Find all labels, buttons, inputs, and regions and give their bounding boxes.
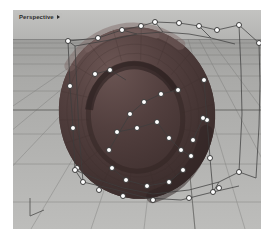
control-point[interactable]	[217, 186, 222, 191]
control-point[interactable]	[128, 112, 133, 117]
control-point[interactable]	[237, 23, 242, 28]
viewport-title-label: Perspective	[19, 13, 54, 21]
control-point[interactable]	[177, 21, 182, 26]
control-point[interactable]	[71, 126, 76, 131]
control-point[interactable]	[120, 28, 125, 33]
control-point[interactable]	[115, 130, 120, 135]
control-point[interactable]	[159, 92, 164, 97]
control-point[interactable]	[201, 116, 206, 121]
control-point[interactable]	[66, 39, 71, 44]
control-point[interactable]	[215, 28, 220, 33]
control-point[interactable]	[108, 68, 113, 73]
perspective-viewport[interactable]: Perspective	[13, 10, 261, 229]
control-point[interactable]	[68, 84, 73, 89]
control-point[interactable]	[189, 154, 194, 159]
control-point[interactable]	[151, 198, 156, 203]
control-point[interactable]	[237, 170, 242, 175]
control-point[interactable]	[93, 72, 98, 77]
control-point[interactable]	[96, 36, 101, 41]
control-point[interactable]	[97, 188, 102, 193]
control-point[interactable]	[121, 194, 126, 199]
control-point[interactable]	[176, 88, 181, 93]
control-point[interactable]	[208, 156, 213, 161]
control-point[interactable]	[110, 166, 115, 171]
chevron-down-icon[interactable]	[57, 15, 60, 19]
control-point[interactable]	[191, 138, 196, 143]
control-point[interactable]	[187, 196, 192, 201]
control-point[interactable]	[155, 120, 160, 125]
control-point[interactable]	[135, 126, 140, 131]
control-point[interactable]	[181, 168, 186, 173]
control-point[interactable]	[124, 178, 129, 183]
screenshot-page: Perspective	[0, 0, 275, 246]
control-point[interactable]	[73, 168, 78, 173]
control-point[interactable]	[167, 180, 172, 185]
control-point[interactable]	[145, 184, 150, 189]
control-point[interactable]	[257, 41, 262, 46]
control-point[interactable]	[179, 148, 184, 153]
control-point[interactable]	[211, 190, 216, 195]
control-point[interactable]	[142, 100, 147, 105]
control-point[interactable]	[81, 180, 86, 185]
control-points[interactable]	[13, 10, 261, 229]
control-point[interactable]	[167, 136, 172, 141]
control-point[interactable]	[139, 24, 144, 29]
control-point[interactable]	[153, 20, 158, 25]
viewport-title[interactable]: Perspective	[17, 13, 62, 21]
control-point[interactable]	[197, 24, 202, 29]
control-point[interactable]	[107, 148, 112, 153]
control-point[interactable]	[202, 78, 207, 83]
